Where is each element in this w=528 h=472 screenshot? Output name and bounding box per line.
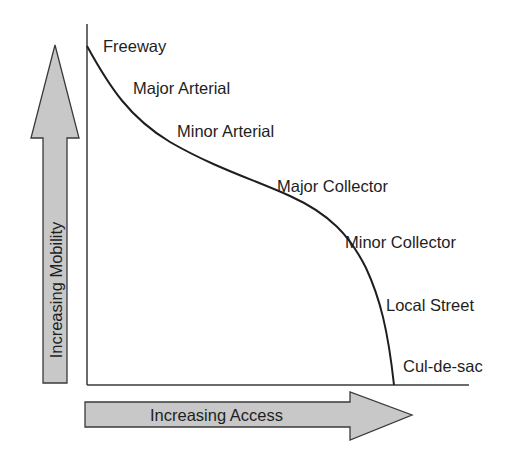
label-major-arterial: Major Arterial [133,79,230,97]
label-local-street: Local Street [386,296,474,314]
increasing-mobility-arrow-icon: Increasing Mobility [31,45,79,383]
label-minor-arterial: Minor Arterial [177,122,274,140]
increasing-mobility-label: Increasing Mobility [47,221,65,358]
label-cul-de-sac: Cul-de-sac [403,357,483,375]
increasing-access-label: Increasing Access [150,406,283,424]
label-minor-collector: Minor Collector [345,233,456,251]
mobility-access-diagram: Increasing Mobility Increasing Access Fr… [0,0,528,472]
label-freeway: Freeway [103,37,167,55]
increasing-access-arrow-icon: Increasing Access [85,392,412,440]
label-major-collector: Major Collector [277,177,388,195]
